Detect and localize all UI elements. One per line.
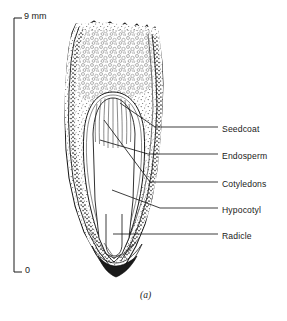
scale-bar-bottom-label: 0 [25, 265, 30, 275]
label-cotyledons: Cotyledons [222, 179, 267, 189]
scale-bar [14, 18, 22, 272]
label-hypocotyl: Hypocotyl [222, 205, 261, 215]
label-endosperm: Endosperm [222, 151, 267, 161]
seed-anatomy-figure: 9 mm 0 Seedcoat Endosperm Cotyledons Hyp… [0, 0, 287, 321]
figure-caption: (a) [140, 290, 151, 300]
label-seedcoat: Seedcoat [222, 124, 260, 134]
scale-bar-top-label: 9 mm [24, 11, 47, 21]
label-radicle: Radicle [222, 231, 252, 241]
seed-section [60, 20, 170, 280]
